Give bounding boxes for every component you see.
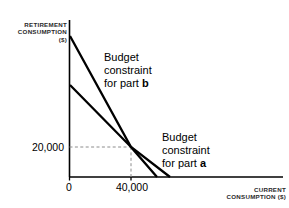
annotation-b-line-3: for part: [104, 77, 142, 89]
y-axis-title-line-2: CONSUMPTION: [18, 28, 67, 35]
y-axis-title-line-3: ($): [59, 36, 67, 43]
x-axis-title: CURRENT CONSUMPTION ($): [212, 186, 286, 201]
y-axis-title-line-1: RETIREMENT: [24, 21, 67, 28]
annotation-a-line-1: Budget: [162, 131, 197, 143]
annotation-a-line-2: constraint: [162, 144, 210, 156]
annotation-b-part-letter: b: [142, 77, 149, 89]
y-axis-title: RETIREMENTCONSUMPTION($): [8, 21, 67, 43]
y-tick-label-20000: 20,000: [14, 141, 64, 153]
annotation-a-line-3: for part: [162, 157, 200, 169]
annotation-a-part-letter: a: [200, 157, 206, 169]
annotation-b-line-2: constraint: [104, 64, 152, 76]
budget-constraint-line-a: [70, 85, 170, 177]
x-axis-title-text: CURRENT CONSUMPTION ($): [227, 186, 286, 200]
x-tick-label-0: 0: [59, 181, 79, 193]
annotation-budget-constraint-a: Budgetconstraintfor part a: [162, 131, 210, 170]
annotation-b-line-1: Budget: [104, 51, 139, 63]
x-tick-label-40000: 40,000: [104, 181, 160, 193]
budget-constraint-chart: RETIREMENTCONSUMPTION($) CURRENT CONSUMP…: [0, 0, 289, 208]
annotation-budget-constraint-b: Budgetconstraintfor part b: [104, 51, 152, 90]
